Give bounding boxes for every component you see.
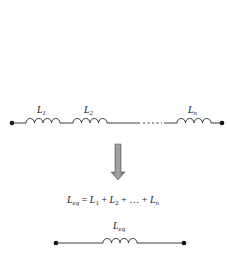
bottom-circuit (54, 239, 187, 246)
inductor-ln-coil (177, 119, 211, 124)
right-terminal (182, 241, 187, 246)
inductor-leq-coil (103, 239, 137, 244)
down-arrow-icon (111, 144, 125, 180)
label-l2: L2 (83, 104, 94, 117)
inductor-l2-coil (73, 119, 107, 124)
inductor-l1-coil (26, 119, 60, 124)
series-inductor-diagram: L1 L2 Ln Leq = L1 + L2 + … + Ln Leq (0, 0, 227, 253)
right-terminal (220, 121, 225, 126)
label-l1: L1 (36, 104, 46, 117)
label-leq: Leq (112, 220, 126, 233)
top-circuit (10, 119, 225, 126)
equivalent-inductance-equation: Leq = L1 + L2 + … + Ln (66, 194, 159, 207)
label-ln: Ln (187, 104, 198, 117)
